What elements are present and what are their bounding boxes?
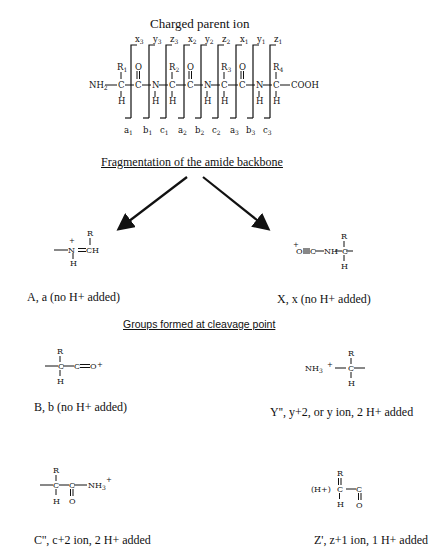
- svg-text:C: C: [310, 247, 316, 256]
- fragment-z-structure: R (H+) CH CO: [310, 470, 380, 515]
- fragment-c-structure: CRH CO NH3 +: [38, 467, 123, 512]
- fragment-a-structure: N+ CHR H: [50, 228, 110, 268]
- svg-text:C: C: [58, 362, 64, 371]
- fragmentation-arrows: [0, 0, 432, 250]
- svg-text:O: O: [69, 497, 76, 506]
- fragment-c-caption: C'', c+2 ion, 2 H+ added: [34, 533, 151, 548]
- svg-text:+: +: [327, 361, 333, 369]
- svg-text:O: O: [90, 362, 97, 371]
- fragment-y-structure: NH3 + CRH: [305, 350, 375, 390]
- svg-text:R: R: [337, 470, 344, 478]
- svg-text:H: H: [348, 379, 355, 388]
- svg-text:+: +: [97, 361, 103, 369]
- fragment-y-caption: Y'', y+2, or y ion, 2 H+ added: [270, 405, 413, 420]
- svg-text:C: C: [348, 364, 354, 373]
- svg-text:CH: CH: [86, 246, 99, 255]
- svg-text:N: N: [68, 246, 75, 255]
- svg-text:C: C: [74, 362, 80, 371]
- svg-text:R: R: [341, 232, 348, 241]
- arrow-right-icon: [203, 177, 267, 228]
- fragment-b-structure: CRH CO+: [40, 347, 115, 387]
- svg-text:C: C: [337, 485, 343, 494]
- svg-text:H: H: [70, 259, 77, 268]
- svg-text:R: R: [53, 467, 60, 475]
- fragment-x-structure: + OCNH CRH: [293, 232, 353, 272]
- svg-text:H: H: [57, 377, 64, 386]
- svg-text:H: H: [53, 497, 60, 506]
- svg-text:(H+): (H+): [311, 485, 331, 494]
- svg-text:O: O: [296, 247, 303, 256]
- arrow-left-icon: [120, 177, 187, 228]
- svg-text:R: R: [57, 347, 64, 356]
- svg-text:+: +: [106, 476, 112, 484]
- svg-text:R: R: [348, 350, 355, 358]
- svg-text:NH3: NH3: [88, 481, 106, 491]
- fragment-x-caption: X, x (no H+ added): [277, 292, 371, 307]
- groups-heading: Groups formed at cleavage point: [123, 318, 275, 330]
- svg-text:C: C: [53, 481, 59, 490]
- svg-text:R: R: [87, 229, 94, 238]
- svg-text:+: +: [69, 237, 75, 245]
- svg-text:NH: NH: [324, 247, 338, 256]
- fragment-a-caption: A, a (no H+ added): [27, 290, 120, 305]
- svg-text:C: C: [69, 481, 75, 490]
- svg-text:O: O: [356, 501, 363, 510]
- fragment-z-caption: Z', z+1 ion, 1 H+ added: [314, 533, 428, 548]
- svg-text:NH3: NH3: [305, 364, 323, 374]
- svg-text:H: H: [337, 500, 344, 509]
- svg-text:C: C: [356, 485, 362, 494]
- svg-text:H: H: [341, 262, 348, 271]
- fragment-b-caption: B, b (no H+ added): [34, 400, 127, 415]
- svg-text:C: C: [342, 247, 348, 256]
